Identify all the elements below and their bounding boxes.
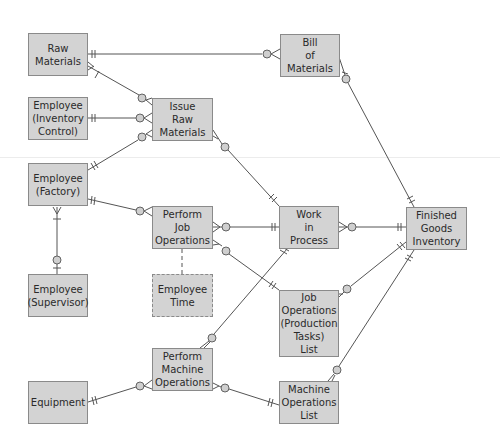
rel-emp-factory-perform-job [88, 196, 152, 216]
entity-label: Bill of Materials [287, 36, 333, 75]
entity-bill-of-materials: Bill of Materials [280, 34, 340, 77]
entity-employee-supervisor: Employee (Supervisor) [28, 274, 88, 317]
entity-perform-machine-operations: Perform Machine Operations [152, 348, 213, 391]
rel-issue-raw-wip [213, 130, 279, 206]
entity-label: Issue Raw Materials [160, 100, 206, 139]
entity-job-operations-list: Job Operations (Production Tasks) List [279, 290, 339, 357]
entity-label: Perform Job Operations [155, 208, 210, 247]
entity-label: Raw Materials [35, 42, 81, 68]
entity-employee-factory: Employee (Factory) [28, 163, 88, 206]
entity-perform-job-operations: Perform Job Operations [152, 206, 213, 249]
entity-raw-materials: Raw Materials [28, 33, 88, 76]
rel-perform-machine-machine-ops [213, 383, 279, 407]
entity-label: Finished Goods Inventory [413, 209, 461, 248]
rel-perform-job-job-ops [213, 240, 279, 290]
entity-finished-goods-inventory: Finished Goods Inventory [406, 207, 467, 250]
entity-employee-inventory-control: Employee (Inventory Control) [28, 97, 88, 140]
rel-emp-factory-supervisor [53, 207, 61, 274]
entity-label: Employee (Inventory Control) [32, 99, 84, 138]
entity-label: Work in Process [290, 208, 328, 247]
rel-perform-job-wip [213, 222, 279, 232]
rel-job-ops-finished-goods [337, 242, 406, 297]
entity-machine-operations-list: Machine Operations List [279, 381, 339, 424]
rel-bom-finished-goods [339, 57, 415, 207]
er-diagram: Raw Materials Employee (Inventory Contro… [0, 0, 500, 442]
rel-raw-materials-issue-raw [88, 62, 152, 105]
rel-emp-factory-issue-raw [88, 130, 152, 170]
rel-raw-materials-bill-of-materials [88, 49, 280, 59]
entity-label: Machine Operations List [282, 383, 337, 422]
entity-label: Employee (Factory) [33, 172, 83, 198]
entity-issue-raw-materials: Issue Raw Materials [152, 98, 213, 141]
entity-label: Perform Machine Operations [155, 350, 210, 389]
entity-equipment: Equipment [28, 381, 88, 424]
rel-wip-finished-goods [339, 222, 406, 232]
rel-emp-inventory-issue-raw [88, 113, 152, 123]
entity-label: Job Operations (Production Tasks) List [280, 291, 337, 356]
rel-equipment-perform-machine [88, 380, 152, 405]
entity-work-in-process: Work in Process [279, 206, 339, 249]
entity-label: Employee (Supervisor) [27, 283, 88, 309]
rel-perform-machine-wip [200, 247, 289, 348]
entity-label: Employee Time [158, 283, 208, 309]
entity-employee-time: Employee Time [152, 274, 213, 317]
entity-label: Equipment [31, 396, 85, 409]
